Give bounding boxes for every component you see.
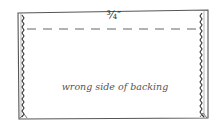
caption-text: wrong side of backing <box>40 81 190 93</box>
seam-allowance-label: ¾″ <box>100 10 128 22</box>
fabric-outline <box>18 10 208 119</box>
